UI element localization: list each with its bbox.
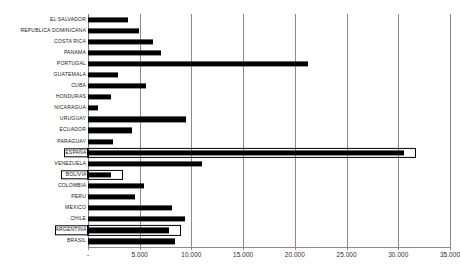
category-label: NICARAGUA bbox=[54, 106, 86, 111]
chart-row: PARAGUAY bbox=[0, 136, 454, 147]
bar bbox=[88, 106, 98, 111]
x-tick-label: 15.000 bbox=[233, 251, 253, 258]
chart-row: PANAMA bbox=[0, 47, 454, 58]
chart-row: URUGUAY bbox=[0, 114, 454, 125]
bar-track bbox=[88, 36, 450, 47]
x-tick-mark bbox=[191, 247, 192, 250]
bar-track bbox=[88, 192, 450, 203]
x-tick-mark bbox=[398, 247, 399, 250]
bar-track bbox=[88, 114, 450, 125]
bar-track bbox=[88, 14, 450, 25]
x-tick-label: 25.000 bbox=[336, 251, 356, 258]
category-label: CUBA bbox=[71, 84, 86, 89]
bar-track bbox=[88, 147, 450, 158]
chart-row: MEXICO bbox=[0, 203, 454, 214]
category-label: COSTA RICA bbox=[54, 39, 86, 44]
bar-track bbox=[88, 225, 450, 236]
chart-row: REPUBLICA DOMINICANA bbox=[0, 25, 454, 36]
chart-row: VENEZUELA bbox=[0, 158, 454, 169]
x-tick-label: 20.000 bbox=[285, 251, 305, 258]
bar bbox=[88, 117, 186, 122]
bar bbox=[88, 239, 175, 244]
bar bbox=[88, 95, 111, 100]
chart-rows: EL SALVADORREPUBLICA DOMINICANACOSTA RIC… bbox=[0, 14, 454, 247]
bar-track bbox=[88, 125, 450, 136]
x-axis-line bbox=[88, 247, 450, 248]
bar-track bbox=[88, 58, 450, 69]
bar bbox=[88, 128, 132, 133]
bar bbox=[88, 139, 113, 144]
category-label: VENEZUELA bbox=[54, 161, 86, 166]
bar-track bbox=[88, 169, 450, 180]
category-label: PERU bbox=[71, 195, 86, 200]
category-label: PARAGUAY bbox=[57, 139, 86, 144]
highlight-box-label bbox=[61, 170, 89, 179]
bar-track bbox=[88, 47, 450, 58]
category-label: PANAMA bbox=[64, 50, 86, 55]
bar bbox=[88, 50, 161, 55]
bar bbox=[88, 28, 139, 33]
bar-track bbox=[88, 214, 450, 225]
bar bbox=[88, 217, 185, 222]
category-label: PORTUGAL bbox=[57, 61, 86, 66]
category-label: URUGUAY bbox=[60, 117, 86, 122]
bar-track bbox=[88, 236, 450, 247]
chart-row: PERU bbox=[0, 192, 454, 203]
chart-row: CUBA bbox=[0, 81, 454, 92]
bar bbox=[88, 17, 128, 22]
chart-row: GUATEMALA bbox=[0, 69, 454, 80]
chart-row: ARGENTINA bbox=[0, 225, 454, 236]
x-tick-mark bbox=[347, 247, 348, 250]
chart-row: HONDURAS bbox=[0, 92, 454, 103]
bar-track bbox=[88, 158, 450, 169]
bar-track bbox=[88, 103, 450, 114]
bar bbox=[88, 161, 202, 166]
bar-track bbox=[88, 25, 450, 36]
chart-row: PORTUGAL bbox=[0, 58, 454, 69]
category-label: ECUADOR bbox=[59, 128, 86, 133]
bar-track bbox=[88, 203, 450, 214]
x-tick-label: 10.000 bbox=[181, 251, 201, 258]
chart-row: ECUADOR bbox=[0, 125, 454, 136]
chart-row: CHILE bbox=[0, 214, 454, 225]
chart-row: BOLIVIA bbox=[0, 169, 454, 180]
x-axis-labels: -5.00010.00015.00020.00025.00030.00035.0… bbox=[0, 251, 454, 267]
x-tick-mark bbox=[88, 247, 89, 250]
bar bbox=[88, 39, 153, 44]
chart-row: BRASIL bbox=[0, 236, 454, 247]
category-label: REPUBLICA DOMINICANA bbox=[20, 28, 86, 33]
bar bbox=[88, 84, 146, 89]
highlight-box-bar bbox=[87, 225, 181, 235]
bar bbox=[88, 61, 308, 66]
x-tick-mark bbox=[450, 247, 451, 250]
bar-track bbox=[88, 136, 450, 147]
chart-row: ESPAÑA bbox=[0, 147, 454, 158]
x-tick-mark bbox=[243, 247, 244, 250]
bar-track bbox=[88, 180, 450, 191]
bar bbox=[88, 183, 144, 188]
bar bbox=[88, 72, 118, 77]
category-label: GUATEMALA bbox=[54, 72, 86, 77]
x-tick-mark bbox=[140, 247, 141, 250]
category-label: EL SALVADOR bbox=[50, 17, 86, 22]
highlight-box-label bbox=[55, 226, 89, 235]
x-tick-label: 30.000 bbox=[388, 251, 408, 258]
bar-track bbox=[88, 81, 450, 92]
category-label: CHILE bbox=[70, 217, 86, 222]
category-label: BRASIL bbox=[67, 239, 86, 244]
bar bbox=[88, 206, 172, 211]
highlight-box-label bbox=[64, 148, 89, 157]
category-label: HONDURAS bbox=[56, 95, 86, 100]
chart-row: NICARAGUA bbox=[0, 103, 454, 114]
bar bbox=[88, 194, 135, 199]
highlight-box-bar bbox=[87, 148, 416, 158]
category-label: MEXICO bbox=[65, 206, 86, 211]
bar-track bbox=[88, 69, 450, 80]
chart-row: COSTA RICA bbox=[0, 36, 454, 47]
chart-row: EL SALVADOR bbox=[0, 14, 454, 25]
x-tick-label: 5.000 bbox=[131, 251, 148, 258]
x-tick-label: - bbox=[87, 251, 89, 258]
highlight-box-bar bbox=[87, 170, 123, 180]
x-tick-mark bbox=[295, 247, 296, 250]
